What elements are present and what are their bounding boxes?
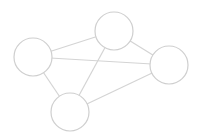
node-D xyxy=(51,93,89,131)
edge-A-C xyxy=(33,57,169,65)
node-B xyxy=(95,12,133,50)
node-C xyxy=(150,46,188,84)
nodes-group xyxy=(14,12,188,131)
graph-diagram xyxy=(0,0,202,139)
node-A xyxy=(14,38,52,76)
